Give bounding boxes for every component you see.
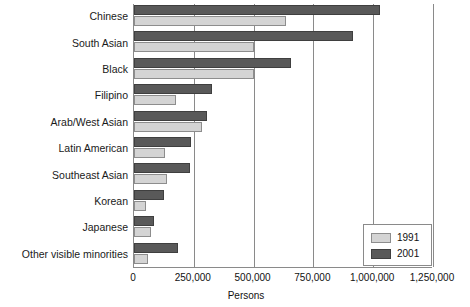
category-label: Japanese [0, 222, 128, 233]
legend: 1991 2001 [363, 224, 432, 266]
legend-label-1991: 1991 [397, 233, 419, 243]
category-label: Chinese [0, 11, 128, 22]
bar-2001 [134, 243, 178, 253]
legend-item-2001: 2001 [371, 249, 419, 259]
category-label: Southeast Asian [0, 170, 128, 181]
bar-1991 [134, 201, 146, 211]
bar-2001 [134, 111, 207, 121]
visible-minority-population-bar-chart: ChineseSouth AsianBlackFilipinoArab/West… [0, 0, 470, 307]
x-tick-label: 500,000 [235, 272, 271, 284]
x-axis-title-text: Persons [228, 290, 265, 301]
x-tick-label: 250,000 [175, 272, 211, 284]
x-tick-label: 0 [130, 272, 136, 284]
legend-swatch-1991 [371, 233, 391, 243]
bar-2001 [134, 216, 154, 226]
bar-1991 [134, 254, 148, 264]
gridline [433, 4, 434, 267]
bar-group [134, 57, 432, 83]
bar-1991 [134, 95, 176, 105]
bar-group [134, 30, 432, 56]
legend-swatch-2001 [371, 249, 391, 259]
bar-group [134, 162, 432, 188]
category-label: Arab/West Asian [0, 117, 128, 128]
x-tick-label: 1,250,000 [410, 272, 455, 284]
legend-item-1991: 1991 [371, 233, 419, 243]
bar-2001 [134, 58, 291, 68]
bar-group [134, 189, 432, 215]
x-axis-title: Persons [0, 290, 470, 301]
category-label: Black [0, 64, 128, 75]
bar-2001 [134, 163, 190, 173]
bar-group [134, 110, 432, 136]
category-label: Filipino [0, 90, 128, 101]
bar-group [134, 83, 432, 109]
bar-2001 [134, 84, 212, 94]
bar-group [134, 136, 432, 162]
bar-2001 [134, 5, 380, 15]
bar-group [134, 4, 432, 30]
bar-2001 [134, 137, 191, 147]
category-label: South Asian [0, 38, 128, 49]
bar-1991 [134, 16, 286, 26]
category-label: Other visible minorities [0, 249, 128, 260]
bar-1991 [134, 174, 167, 184]
bar-1991 [134, 122, 202, 132]
bar-1991 [134, 42, 254, 52]
category-label: Korean [0, 196, 128, 207]
category-label: Latin American [0, 143, 128, 154]
x-tick-label: 1,000,000 [350, 272, 395, 284]
bar-1991 [134, 148, 165, 158]
bar-1991 [134, 227, 151, 237]
x-tick-label: 750,000 [294, 272, 330, 284]
bar-2001 [134, 190, 164, 200]
bar-1991 [134, 69, 254, 79]
legend-label-2001: 2001 [397, 249, 419, 259]
bar-2001 [134, 31, 353, 41]
